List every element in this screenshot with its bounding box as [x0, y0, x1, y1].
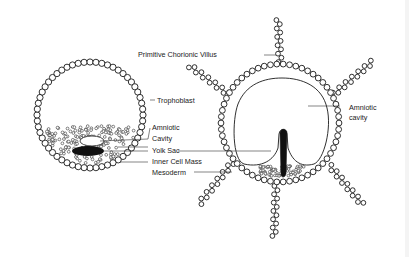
- cell: [220, 85, 225, 90]
- cell: [140, 106, 146, 112]
- cell: [244, 71, 250, 77]
- cell: [104, 162, 110, 168]
- cell: [305, 68, 311, 74]
- cell: [213, 80, 218, 85]
- cell: [293, 63, 299, 69]
- cell: [100, 125, 103, 128]
- cell: [288, 165, 291, 168]
- cell: [234, 80, 240, 86]
- cell: [76, 142, 79, 145]
- cell: [230, 84, 236, 90]
- cell: [112, 125, 115, 128]
- cell: [349, 80, 354, 85]
- cell: [274, 170, 277, 173]
- cell: [315, 165, 321, 171]
- cell: [125, 128, 128, 131]
- cell: [260, 172, 263, 175]
- cell: [274, 26, 279, 31]
- cell: [90, 129, 93, 132]
- cell: [115, 146, 118, 149]
- cell: [199, 70, 204, 75]
- blastocyst-figure: [34, 59, 146, 171]
- cell: [97, 160, 100, 163]
- cell: [320, 161, 326, 167]
- cell: [361, 69, 366, 74]
- cell: [87, 131, 90, 134]
- cell: [261, 177, 267, 183]
- cell: [340, 175, 345, 180]
- cell: [362, 64, 367, 69]
- cell: [122, 131, 125, 134]
- cell: [274, 205, 279, 210]
- cell: [255, 175, 261, 181]
- cell: [329, 168, 334, 173]
- cell: [264, 172, 267, 175]
- cell: [78, 131, 81, 134]
- cell: [320, 80, 326, 86]
- cell: [122, 143, 125, 146]
- cell: [192, 65, 197, 70]
- cell: [287, 168, 290, 171]
- cell: [215, 182, 220, 187]
- cell: [61, 131, 64, 134]
- cell: [105, 153, 108, 156]
- cell: [61, 142, 64, 145]
- cell: [244, 169, 250, 175]
- cell: [207, 80, 212, 85]
- cell: [87, 59, 93, 65]
- cell: [227, 151, 233, 157]
- cell: [210, 188, 215, 193]
- cell: [268, 170, 271, 173]
- cell: [249, 172, 255, 178]
- cell: [239, 75, 245, 81]
- cell: [109, 129, 112, 132]
- yolk-sac-shape: [72, 146, 104, 156]
- diagram-canvas: Primitive Chorionic Villus Trophoblast A…: [0, 0, 409, 257]
- cell: [280, 61, 286, 67]
- cell: [267, 165, 270, 168]
- label-inner-cell-mass: Inner Cell Mass: [152, 157, 202, 166]
- cell: [278, 39, 283, 44]
- cell: [69, 62, 75, 68]
- cell: [35, 100, 41, 106]
- cell: [107, 147, 110, 150]
- cell: [297, 169, 300, 172]
- cell: [368, 64, 373, 69]
- cell: [93, 59, 99, 65]
- cell: [132, 129, 135, 132]
- cell: [62, 149, 65, 152]
- cell: [268, 178, 274, 184]
- cell: [204, 189, 209, 194]
- cell: [261, 63, 267, 69]
- cell: [37, 129, 43, 135]
- cell: [100, 145, 103, 148]
- cell: [299, 65, 305, 71]
- cell: [108, 125, 111, 128]
- cell: [350, 193, 355, 198]
- cell: [95, 127, 98, 130]
- cell: [350, 188, 355, 193]
- cell: [224, 145, 230, 151]
- cell: [218, 114, 224, 120]
- cell: [58, 138, 61, 141]
- cell: [324, 156, 330, 162]
- cell: [230, 156, 236, 162]
- cell: [355, 74, 360, 79]
- cell: [210, 183, 215, 188]
- cell: [91, 158, 94, 161]
- cell: [67, 146, 70, 149]
- cell: [226, 168, 231, 173]
- cell: [274, 221, 279, 226]
- cell: [274, 213, 279, 218]
- cell: [64, 135, 67, 138]
- cell: [81, 59, 87, 65]
- cell: [51, 132, 54, 135]
- cell: [368, 58, 373, 63]
- cell: [34, 118, 40, 124]
- cell: [227, 90, 233, 96]
- cell: [140, 112, 146, 118]
- cell: [60, 152, 63, 155]
- cell: [54, 132, 57, 135]
- page-edge: [405, 0, 409, 257]
- cell: [271, 209, 276, 214]
